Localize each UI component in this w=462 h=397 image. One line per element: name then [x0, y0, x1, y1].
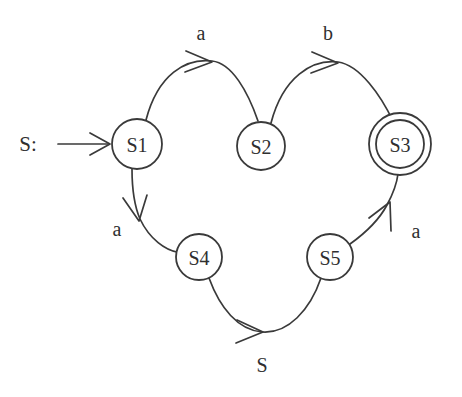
start-arrow: [58, 133, 110, 155]
state-node-s5[interactable]: S5: [307, 234, 353, 280]
state-node-s4-label: S4: [188, 247, 209, 269]
state-node-s5-label: S5: [319, 247, 340, 269]
transition-s1-s4-label: a: [113, 218, 122, 240]
state-node-s3[interactable]: S3: [369, 113, 431, 175]
state-node-s1[interactable]: S1: [112, 119, 162, 169]
transition-s1-s2: [146, 51, 258, 121]
transition-s4-s5-label: S: [256, 354, 267, 376]
transition-s1-s4-path: [132, 169, 177, 252]
transition-s5-s3-label: a: [412, 220, 421, 242]
transition-s5-s3: [350, 174, 398, 244]
transition-s1-s2-label: a: [197, 22, 206, 44]
fsm-canvas: S: a b a S a: [0, 0, 462, 397]
transition-s2-s3-label: b: [323, 22, 333, 44]
transition-s1-s4: [123, 169, 177, 252]
transition-s2-s3-path: [271, 62, 393, 123]
state-node-s2[interactable]: S2: [237, 122, 285, 170]
state-node-s3-label: S3: [389, 134, 410, 156]
transition-s2-s3: [271, 52, 393, 123]
fsm-diagram: S: a b a S a: [0, 0, 462, 397]
transition-s1-s2-path: [146, 61, 258, 121]
transition-s4-s5-path: [209, 278, 321, 332]
state-node-s2-label: S2: [250, 136, 271, 158]
start-state-label: S:: [19, 132, 37, 156]
transition-s4-s5: [209, 278, 321, 343]
state-node-s4[interactable]: S4: [176, 234, 222, 280]
state-node-s1-label: S1: [126, 134, 147, 156]
